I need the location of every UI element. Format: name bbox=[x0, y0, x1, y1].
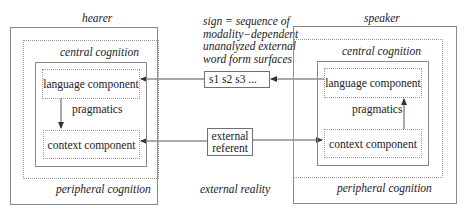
speaker-title: speaker bbox=[364, 12, 400, 25]
hearer-title: hearer bbox=[82, 12, 112, 25]
external-reality-label: external reality bbox=[200, 183, 270, 196]
external-referent-box: external referent bbox=[207, 128, 253, 156]
sign-box: s1 s2 s3 ... bbox=[204, 71, 270, 88]
hearer-language-component: language component bbox=[42, 69, 140, 99]
hearer-context-component: context component bbox=[43, 130, 140, 159]
speaker-language-component: language component bbox=[324, 68, 422, 98]
external-referent-line-2: referent bbox=[208, 142, 252, 155]
hearer-context-component-label: context component bbox=[44, 139, 139, 151]
speaker-context-component-label: context component bbox=[325, 138, 421, 150]
speaker-central-cognition-label: central cognition bbox=[342, 45, 421, 58]
hearer-language-component-label: language component bbox=[43, 78, 139, 90]
speaker-peripheral-cognition-label: peripheral cognition bbox=[337, 182, 432, 195]
hearer-central-cognition-label: central cognition bbox=[60, 46, 139, 59]
speaker-context-component: context component bbox=[324, 129, 422, 158]
speaker-pragmatics-label: pragmatics bbox=[352, 103, 402, 116]
speaker-language-component-label: language component bbox=[325, 77, 421, 89]
hearer-peripheral-cognition-label: peripheral cognition bbox=[56, 183, 151, 196]
hearer-pragmatics-label: pragmatics bbox=[72, 103, 122, 116]
sign-box-label: s1 s2 s3 ... bbox=[209, 73, 257, 86]
